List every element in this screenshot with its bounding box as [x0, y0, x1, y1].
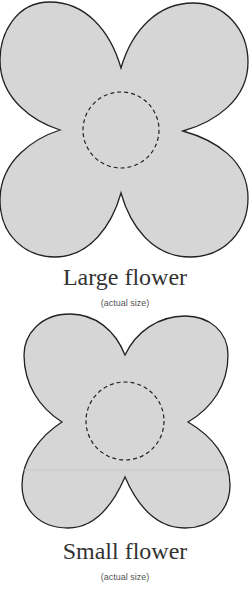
small-flower-label: Small flower — [0, 538, 250, 565]
small-flower-shape — [22, 314, 230, 528]
large-flower-caption: (actual size) — [0, 298, 250, 308]
small-flower-caption: (actual size) — [0, 572, 250, 582]
large-flower-label: Large flower — [0, 264, 250, 291]
large-flower-shape — [0, 2, 248, 257]
